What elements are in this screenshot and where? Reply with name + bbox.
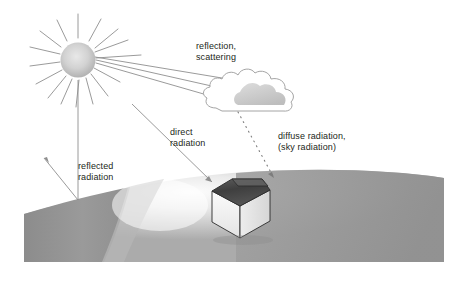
label-direct-radiation: direct radiation [170,127,205,149]
sun-ray-to-cloud [96,60,216,87]
sun-to-cloud-rays [95,57,222,97]
sun-ray [94,68,120,82]
sun-ray [30,62,60,66]
solar-radiation-diagram: reflection, scattering direct radiation … [0,0,468,291]
cloud-group [203,69,293,111]
sun-ray [57,20,67,41]
diffuse-radiation-dotted-ray [238,112,274,178]
label-line: scattering [196,52,236,63]
label-diffuse-radiation: diffuse radiation, (sky radiation) [278,131,346,153]
ground-highlight [112,179,208,231]
label-line: diffuse radiation, [278,131,346,142]
sun-ray [96,55,141,58]
sun-ray [36,70,62,84]
sun-ray [30,47,60,54]
label-line: reflection, [196,41,236,52]
label-reflected-radiation: reflected radiation [78,161,113,183]
sun-ray [86,78,93,104]
reflected-radiation-ray [44,158,78,200]
label-line: reflected [78,161,113,172]
sun-ray [91,74,108,96]
sun-ray [95,40,128,52]
label-line: direct [170,127,205,138]
sun-ray [76,80,79,107]
sun-icon [61,43,96,78]
reflected-radiation-arrowhead [44,157,49,163]
sun-ray [61,79,72,104]
label-reflection-scattering: reflection, scattering [196,41,236,63]
sun-ray [89,19,101,41]
label-line: radiation [170,138,205,149]
sun-ray [40,31,61,47]
sun-ray-to-cloud [96,63,214,97]
label-line: (sky radiation) [278,142,346,153]
house-back-roof [232,179,268,186]
label-line: radiation [78,172,113,183]
sun-ray [48,76,66,98]
house-shadow [213,235,273,245]
